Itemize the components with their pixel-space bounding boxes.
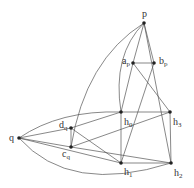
edge-layer xyxy=(19,23,171,175)
label-ap: ap xyxy=(122,55,130,68)
edge-cq-h3 xyxy=(71,112,170,147)
label-h1: h1 xyxy=(124,166,133,179)
node-ap xyxy=(131,61,135,65)
edge-q-h1 xyxy=(19,138,121,163)
node-dq xyxy=(69,126,73,130)
edge-h3-h2 xyxy=(170,112,171,163)
node-h3 xyxy=(168,110,172,114)
node-q xyxy=(17,136,21,140)
edge-p-h2 xyxy=(144,23,171,163)
label-layer: papbph0h3dqqcqh1h2 xyxy=(9,8,183,180)
label-h3: h3 xyxy=(173,116,182,129)
label-p: p xyxy=(142,8,147,19)
node-p xyxy=(142,21,146,25)
edge-q-h0 xyxy=(19,112,121,138)
label-h2: h2 xyxy=(174,167,183,180)
edge-bp-h1 xyxy=(121,63,154,163)
node-h0 xyxy=(119,110,123,114)
edge-dq-h1 xyxy=(71,128,121,163)
edge-p-cq xyxy=(71,23,144,147)
label-q: q xyxy=(9,132,14,143)
label-h0: h0 xyxy=(124,116,133,129)
node-h1 xyxy=(119,161,123,165)
node-bp xyxy=(152,61,156,65)
node-h2 xyxy=(169,161,173,165)
label-bp: bp xyxy=(159,55,168,68)
graph-diagram: papbph0h3dqqcqh1h2 xyxy=(0,0,194,188)
node-cq xyxy=(69,145,73,149)
edge-ap-h0 xyxy=(121,63,133,112)
graph-svg: papbph0h3dqqcqh1h2 xyxy=(0,0,194,188)
